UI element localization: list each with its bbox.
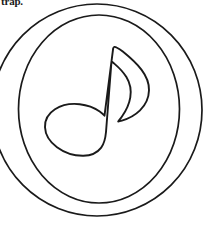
eighth-note-outline (45, 47, 149, 156)
music-note-illustration (0, 0, 204, 233)
music-note-icon (45, 47, 149, 156)
coloring-page: trap. (0, 0, 204, 233)
inner-circle (19, 15, 180, 203)
outer-circle (0, 4, 202, 216)
